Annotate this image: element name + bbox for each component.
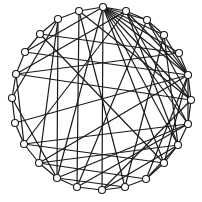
graph-node [100,4,107,11]
graph-node [161,160,168,167]
graph-node [55,16,62,23]
graph-node [74,184,81,191]
graph-edge [57,19,58,178]
graph-node [36,160,43,167]
graph-node [99,187,106,194]
graph-node [76,8,83,15]
graph-node [21,141,28,148]
circular-graph-diagram [0,0,202,202]
graph-node [161,32,168,39]
graph-node [123,8,130,15]
graph-node [122,184,129,191]
graph-node [9,95,16,102]
graph-node [176,50,183,57]
graph-edge [16,74,191,100]
graph-edge [39,145,178,163]
graph-node [13,71,20,78]
graph-node [188,97,195,104]
graph-node [185,121,192,128]
graph-node [143,176,150,183]
graph-edge [12,19,58,98]
graph-node [54,175,61,182]
graph-edge [25,7,103,52]
graph-node [37,31,44,38]
graph-node [12,120,19,127]
graph-edge [103,7,179,53]
graph-node [185,72,192,79]
graph-node [22,49,29,56]
graph-node [175,142,182,149]
graph-node [144,17,151,24]
